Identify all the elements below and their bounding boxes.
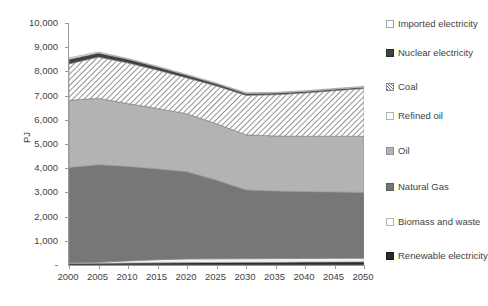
x-axis-tick-mark [158, 265, 159, 269]
x-axis-tick-label: 2025 [205, 271, 226, 282]
y-axis-tick-mark [65, 120, 69, 121]
coal-swatch-icon [386, 83, 394, 91]
y-axis-tick-label: 6,000 [34, 115, 58, 125]
legend-item-biomass[interactable]: Biomass and waste [386, 216, 488, 228]
y-axis-tick-label: 2,000 [34, 212, 58, 222]
x-axis-tick-mark [128, 265, 129, 269]
y-axis-tick-mark [65, 192, 69, 193]
y-axis-tick-label: 7,000 [34, 91, 58, 101]
y-axis-tick-mark [65, 241, 69, 242]
y-axis-tick-label: 9,000 [34, 42, 58, 52]
y-axis-tick-mark [65, 96, 69, 97]
imported-swatch-icon [386, 20, 394, 28]
naturalgas-swatch-icon [386, 183, 394, 191]
x-axis-tick-mark [187, 265, 188, 269]
y-axis-tick-mark [65, 23, 69, 24]
legend-item-naturalgas[interactable]: Natural Gas [386, 181, 488, 193]
y-axis-tick-labels: -1,0002,0003,0004,0005,0006,0007,0008,00… [0, 0, 64, 306]
y-axis-tick-label: - [55, 260, 58, 270]
legend-item-oil[interactable]: Oil [386, 145, 488, 157]
renewable-swatch-icon [386, 252, 394, 260]
legend-item-label: Imported electricity [398, 18, 488, 30]
x-axis-tick-mark [246, 265, 247, 269]
legend-item-label: Oil [398, 145, 488, 157]
y-axis-tick-label: 8,000 [34, 66, 58, 76]
y-axis-tick-mark [65, 217, 69, 218]
x-axis-tick-mark [335, 265, 336, 269]
x-axis-tick-label: 2030 [234, 271, 255, 282]
nuclear-swatch-icon [386, 49, 394, 57]
x-axis-tick-label: 2015 [146, 271, 167, 282]
x-axis-tick-label: 2020 [175, 271, 196, 282]
y-axis-tick-mark [65, 71, 69, 72]
legend-item-label: Coal [398, 81, 488, 93]
legend-item-refinedoil[interactable]: Refined oil [386, 110, 488, 122]
x-axis-tick-label: 2040 [293, 271, 314, 282]
legend-item-coal[interactable]: Coal [386, 81, 488, 93]
x-axis-tick-mark [217, 265, 218, 269]
legend-item-renewable[interactable]: Renewable electricity [386, 250, 488, 262]
legend-item-label: Natural Gas [398, 181, 488, 193]
y-axis-tick-label: 5,000 [34, 139, 58, 149]
legend-item-label: Refined oil [398, 110, 488, 122]
x-axis-tick-label: 2005 [87, 271, 108, 282]
x-axis-tick-label: 2000 [57, 271, 78, 282]
legend-item-label: Renewable electricity [398, 250, 488, 262]
oil-swatch-icon [386, 147, 394, 155]
y-axis-tick-label: 10,000 [29, 18, 58, 28]
x-axis-tick-mark [99, 265, 100, 269]
legend-item-imported[interactable]: Imported electricity [386, 18, 488, 30]
chart-legend: Imported electricityNuclear electricityC… [386, 14, 487, 292]
y-axis-tick-label: 1,000 [34, 236, 58, 246]
x-axis-tick-label: 2050 [352, 271, 373, 282]
y-axis-tick-label: 4,000 [34, 163, 58, 173]
x-axis-tick-mark [69, 265, 70, 269]
y-axis-tick-mark [65, 47, 69, 48]
plot-area [68, 23, 364, 266]
x-axis-tick-label: 2010 [116, 271, 137, 282]
y-axis-tick-label: 3,000 [34, 187, 58, 197]
x-axis-tick-mark [276, 265, 277, 269]
x-axis-tick-mark [305, 265, 306, 269]
x-axis-tick-label: 2045 [323, 271, 344, 282]
plot-svg [69, 23, 364, 265]
legend-item-label: Nuclear electricity [398, 47, 488, 59]
y-axis-tick-mark [65, 168, 69, 169]
series-areas [69, 52, 364, 265]
x-axis-tick-label: 2035 [264, 271, 285, 282]
legend-item-label: Biomass and waste [398, 216, 488, 228]
biomass-swatch-icon [386, 218, 394, 226]
legend-item-nuclear[interactable]: Nuclear electricity [386, 47, 488, 59]
refinedoil-swatch-icon [386, 112, 394, 120]
x-axis-tick-mark [364, 265, 365, 269]
y-axis-tick-mark [65, 144, 69, 145]
